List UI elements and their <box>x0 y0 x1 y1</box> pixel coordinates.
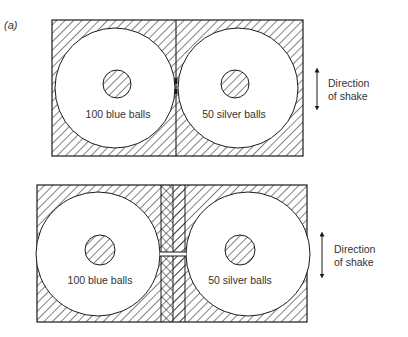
bottom-left-inner-disc <box>85 235 115 265</box>
top-gap-mark-upper <box>175 78 178 84</box>
diagram: (a) 100 blue balls 50 silver balls Direc… <box>0 0 408 337</box>
top-direction-label-line1: Direction <box>328 77 370 89</box>
bottom-right-label: 50 silver balls <box>208 274 272 286</box>
top-figure: 100 blue balls 50 silver balls Direction… <box>52 20 370 156</box>
top-direction-label-line2: of shake <box>328 90 368 102</box>
bottom-figure: 100 blue balls 50 silver balls Direction… <box>36 185 376 322</box>
bottom-right-inner-disc <box>225 235 255 265</box>
bottom-left-label: 100 blue balls <box>68 274 133 286</box>
bottom-direction-label-line2: of shake <box>334 256 374 268</box>
bottom-direction-label-line1: Direction <box>334 243 376 255</box>
panel-label: (a) <box>4 19 18 31</box>
top-right-label: 50 silver balls <box>202 108 266 120</box>
top-gap-mark-lower <box>175 89 178 94</box>
bottom-gap-channel <box>160 252 186 256</box>
top-left-inner-disc <box>103 70 131 98</box>
top-left-label: 100 blue balls <box>86 108 151 120</box>
top-right-inner-disc <box>221 70 249 98</box>
